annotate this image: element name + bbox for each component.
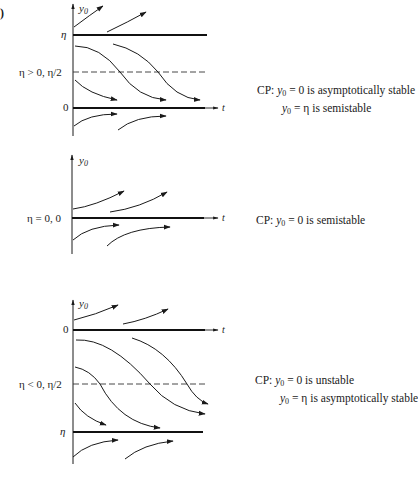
part-marker: ) — [0, 7, 4, 19]
solution-curve-arrow-icon — [75, 80, 117, 100]
solution-curve-arrow-icon — [76, 340, 205, 414]
eta-zero-label: η = 0, 0 — [27, 213, 61, 224]
panel-eta-positive — [73, 4, 218, 136]
eta-label: η — [61, 29, 66, 40]
caption-panel-1: CP: y0 = 0 is asymptotically stable y0 =… — [257, 83, 415, 119]
panel-eta-negative — [73, 300, 218, 464]
panel-eta-zero — [72, 155, 218, 254]
zero-label: 0 — [63, 324, 69, 335]
solution-curve-arrow-icon — [73, 225, 119, 240]
solution-curve-arrow-icon — [73, 440, 118, 457]
half-eta-label: η > 0, η/2 — [19, 67, 62, 78]
half-eta-label: η < 0, η/2 — [19, 379, 62, 390]
solution-curve-arrow-icon — [125, 441, 173, 459]
solution-curve-arrow-icon — [75, 46, 166, 100]
solution-curve-arrow-icon — [110, 192, 167, 212]
solution-curve-arrow-icon — [75, 403, 106, 425]
solution-curve-arrow-icon — [75, 367, 160, 428]
solution-curve-arrow-icon — [123, 309, 168, 324]
solution-curve-arrow-icon — [132, 338, 208, 404]
t-axis-label: t — [222, 103, 225, 113]
solution-curve-arrow-icon — [73, 191, 124, 209]
solution-curve-arrow-icon — [107, 227, 170, 246]
y-axis-label: y0 — [79, 155, 88, 168]
t-axis-label: t — [222, 325, 225, 335]
t-axis-label: t — [222, 213, 225, 223]
zero-label: 0 — [63, 102, 69, 113]
solution-curve-arrow-icon — [107, 12, 146, 32]
caption-panel-3: CP: y0 = 0 is unstable y0 = η is asympto… — [255, 373, 418, 409]
solution-curve-arrow-icon — [74, 114, 117, 126]
y-axis-label: y0 — [79, 3, 88, 16]
y-axis-label: y0 — [79, 298, 88, 311]
eta-label: η — [60, 426, 65, 437]
solution-curve-arrow-icon — [118, 116, 166, 130]
caption-panel-2: CP: y0 = 0 is semistable — [256, 213, 365, 231]
